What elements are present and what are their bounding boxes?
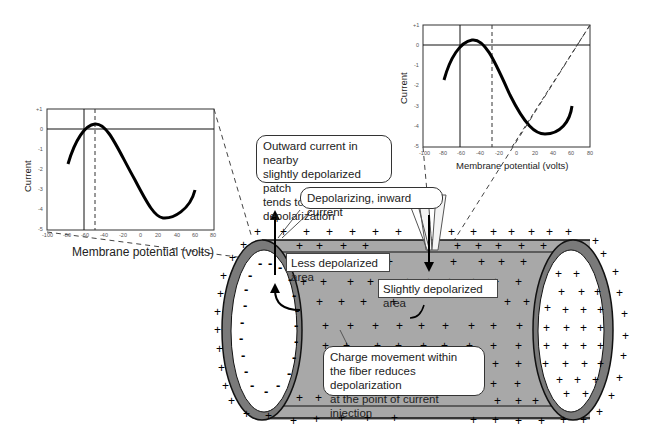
right-ytick--3: -3 xyxy=(414,103,419,109)
svg-text:+: + xyxy=(228,394,235,408)
right-xtick: -40 xyxy=(476,150,484,156)
svg-text:+: + xyxy=(620,349,627,363)
svg-text:+: + xyxy=(494,394,501,408)
left-xtick: -20 xyxy=(119,232,127,238)
charge-movement-callout: Charge movement within the fiber reduces… xyxy=(323,346,485,396)
right-xtick: 20 xyxy=(532,150,538,156)
left-ytick-+1: +1 xyxy=(36,106,42,112)
svg-text:+: + xyxy=(565,225,572,239)
svg-text:-: - xyxy=(258,256,262,271)
left-ytick--1: -1 xyxy=(38,146,43,152)
svg-text:+: + xyxy=(316,295,323,309)
svg-text:+: + xyxy=(290,414,297,428)
svg-text:-: - xyxy=(243,298,247,313)
svg-text:+: + xyxy=(580,303,587,317)
svg-text:+: + xyxy=(515,339,522,353)
right-ytick-+1: +1 xyxy=(413,22,419,28)
svg-text:+: + xyxy=(280,225,287,239)
svg-text:+: + xyxy=(520,255,527,269)
svg-text:+: + xyxy=(495,239,502,253)
left-ytick--2: -2 xyxy=(38,166,43,172)
left-xtick: 0 xyxy=(139,232,142,238)
svg-text:+: + xyxy=(243,407,250,421)
svg-text:+: + xyxy=(515,394,522,408)
inward-current-callout: Depolarizing, inward current xyxy=(300,187,443,209)
right-xtick: 0 xyxy=(515,150,518,156)
svg-text:+: + xyxy=(558,285,565,299)
svg-text:-: - xyxy=(241,348,245,363)
svg-text:+: + xyxy=(322,319,329,333)
left-xtick: -100 xyxy=(42,232,53,238)
svg-text:+: + xyxy=(515,357,522,371)
slightly-depolarized-label: Slightly depolarized area xyxy=(378,279,498,298)
svg-text:+: + xyxy=(316,239,323,253)
svg-text:+: + xyxy=(580,413,587,427)
less-depolarized-label: Less depolarized area xyxy=(286,253,390,272)
svg-text:-: - xyxy=(295,303,299,318)
svg-text:-: - xyxy=(292,350,296,365)
svg-text:+: + xyxy=(367,275,374,289)
svg-text:+: + xyxy=(360,295,367,309)
outward-current-callout: Outward current in nearby slightly depol… xyxy=(256,135,392,183)
svg-text:+: + xyxy=(515,414,522,428)
svg-text:+: + xyxy=(532,394,539,408)
svg-text:+: + xyxy=(372,319,379,333)
svg-text:+: + xyxy=(556,373,563,387)
svg-text:+: + xyxy=(222,379,229,393)
svg-text:-: - xyxy=(278,260,282,275)
svg-text:+: + xyxy=(594,285,601,299)
svg-text:+: + xyxy=(544,301,551,315)
right-ytick--4: -4 xyxy=(414,123,419,129)
right-xtick: -80 xyxy=(439,150,447,156)
svg-text:+: + xyxy=(442,319,449,333)
svg-text:+: + xyxy=(478,255,485,269)
svg-text:+: + xyxy=(454,239,461,253)
svg-text:-: - xyxy=(264,384,268,399)
right-plot-ylabel: Current xyxy=(398,72,409,104)
svg-text:+: + xyxy=(562,339,569,353)
left-xtick: 60 xyxy=(192,232,198,238)
svg-text:-: - xyxy=(239,331,243,346)
svg-text:+: + xyxy=(608,389,615,403)
svg-text:+: + xyxy=(555,267,562,281)
svg-text:+: + xyxy=(543,339,550,353)
svg-text:+: + xyxy=(592,373,599,387)
svg-text:+: + xyxy=(326,225,333,239)
svg-text:+: + xyxy=(562,303,569,317)
svg-text:+: + xyxy=(523,295,530,309)
svg-text:+: + xyxy=(563,387,570,401)
svg-text:+: + xyxy=(546,225,553,239)
svg-text:+: + xyxy=(514,377,521,391)
svg-text:+: + xyxy=(574,373,581,387)
svg-text:+: + xyxy=(265,409,272,423)
svg-text:+: + xyxy=(468,319,475,333)
right-xtick: -100 xyxy=(419,150,430,156)
left-xtick: 20 xyxy=(155,232,161,238)
svg-text:-: - xyxy=(287,366,291,381)
svg-text:+: + xyxy=(492,413,499,427)
svg-text:+: + xyxy=(340,239,347,253)
right-xtick: 40 xyxy=(550,150,556,156)
left-xtick: -60 xyxy=(81,232,89,238)
svg-text:+: + xyxy=(490,377,497,391)
svg-text:+: + xyxy=(578,285,585,299)
svg-text:+: + xyxy=(597,303,604,317)
svg-text:+: + xyxy=(597,357,604,371)
svg-text:+: + xyxy=(218,361,225,375)
svg-text:+: + xyxy=(349,225,356,239)
svg-text:+: + xyxy=(347,275,354,289)
right-plot xyxy=(423,25,590,147)
svg-text:+: + xyxy=(220,269,227,283)
right-ytick--2: -2 xyxy=(414,82,419,88)
right-xtick: -60 xyxy=(457,150,465,156)
svg-text:+: + xyxy=(622,329,629,343)
svg-text:+: + xyxy=(490,225,497,239)
svg-text:+: + xyxy=(542,357,549,371)
right-xtick: -20 xyxy=(495,150,503,156)
right-plot-xlabel: Membrane potential (volts) xyxy=(456,160,568,171)
svg-text:+: + xyxy=(592,234,599,248)
svg-text:+: + xyxy=(582,387,589,401)
svg-text:+: + xyxy=(612,265,619,279)
svg-text:+: + xyxy=(581,357,588,371)
right-xtick: 60 xyxy=(568,150,574,156)
